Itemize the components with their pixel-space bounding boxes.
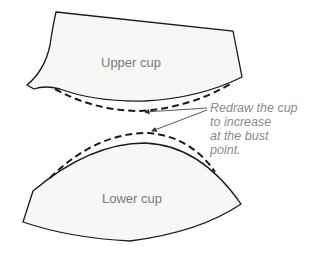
annotation-line-4: point. <box>209 143 241 157</box>
annotation-line-3: at the bust <box>210 129 269 143</box>
annotation-arrow-lower <box>152 110 207 131</box>
annotation-line-2: to increase <box>210 115 271 129</box>
bra-cup-diagram: Upper cup Lower cup Redraw the cup to in… <box>0 0 311 253</box>
annotation-line-1: Redraw the cup <box>210 101 298 115</box>
upper-cup-label: Upper cup <box>101 55 161 70</box>
lower-cup-label: Lower cup <box>102 191 162 206</box>
